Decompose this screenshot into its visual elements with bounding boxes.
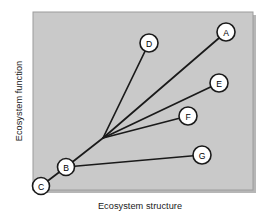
- node-b[interactable]: B: [58, 159, 75, 176]
- node-a[interactable]: A: [217, 23, 235, 41]
- x-axis-label: Ecosystem structure: [98, 201, 182, 211]
- node-c-label: C: [38, 182, 44, 192]
- node-g-label: G: [199, 151, 206, 161]
- node-b-label: B: [63, 163, 69, 173]
- node-f-label: F: [185, 112, 190, 122]
- node-d[interactable]: D: [140, 34, 158, 52]
- node-c[interactable]: C: [33, 178, 50, 195]
- node-e[interactable]: E: [210, 74, 228, 92]
- y-axis-label: Ecosystem function: [14, 61, 24, 142]
- node-e-label: E: [216, 79, 222, 89]
- node-a-label: A: [223, 28, 229, 38]
- figure-container: A D E F G B C Ecosystem function Ecos: [0, 0, 272, 220]
- node-f[interactable]: F: [179, 107, 197, 125]
- node-d-label: D: [146, 39, 152, 49]
- ecosystem-diagram-svg: A D E F G B C Ecosystem function Ecos: [0, 0, 272, 220]
- node-g[interactable]: G: [193, 146, 211, 164]
